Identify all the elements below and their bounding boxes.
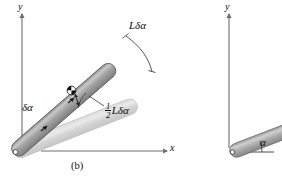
center-displacement-term: Lδα xyxy=(112,104,129,116)
figure-caption: (b) xyxy=(71,161,83,172)
rotation-angle-label: δα xyxy=(22,102,33,113)
tip-displacement-bracket xyxy=(123,34,156,73)
right-y-axis-label: y xyxy=(225,2,229,12)
physics-figure: y x Lδα δα 12Lδα (b) y α xyxy=(0,0,282,178)
fraction-denominator: 2 xyxy=(105,110,111,120)
angle-alpha-label: α xyxy=(260,137,266,148)
tip-displacement-label: Lδα xyxy=(129,20,146,31)
center-displacement-label: 12Lδα xyxy=(105,102,129,121)
fraction-numerator: 1 xyxy=(105,102,111,111)
one-half-fraction: 12 xyxy=(105,102,111,121)
left-x-axis-label: x xyxy=(170,143,174,153)
left-y-axis-label: y xyxy=(18,2,22,12)
pivot-point-left xyxy=(13,150,18,155)
pivot-point-right xyxy=(230,150,235,155)
center-of-mass-marker xyxy=(67,86,76,95)
